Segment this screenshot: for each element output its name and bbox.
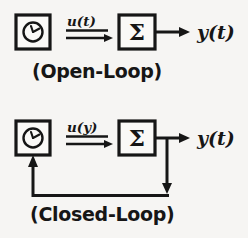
closed-loop-caption: (Closed-Loop) (30, 205, 174, 224)
block-diagram-figure: u(t) Σ y(t) (0, 0, 248, 238)
closed-loop-controller-block (16, 121, 50, 155)
open-loop-diagram: u(t) Σ y(t) (16, 13, 235, 49)
closed-loop-diagram: u(y) Σ y(t) (16, 119, 235, 197)
open-loop-plant-block: Σ (119, 15, 155, 49)
feedback-up-arrow-head (28, 155, 38, 167)
output-arrow-head (179, 27, 190, 37)
sigma-symbol: Σ (129, 18, 145, 45)
open-loop-input-signal: u(t) (66, 13, 113, 42)
input-signal-label: u(t) (67, 13, 96, 29)
input-signal-label: u(y) (67, 119, 97, 135)
feedback-down-arrow-head (162, 183, 172, 194)
open-loop-controller-block (16, 15, 50, 49)
closed-loop-plant-block: Σ (119, 121, 155, 155)
sigma-symbol: Σ (129, 124, 145, 151)
output-arrow-head (179, 133, 190, 143)
output-signal-label: y(t) (196, 21, 235, 43)
open-loop-output-signal: y(t) (155, 21, 235, 43)
open-loop-caption: (Open-Loop) (32, 62, 162, 81)
output-signal-label: y(t) (196, 127, 235, 149)
input-signal-arrow-head (104, 34, 113, 42)
input-signal-arrow-head (104, 140, 113, 148)
closed-loop-input-signal: u(y) (66, 119, 113, 148)
